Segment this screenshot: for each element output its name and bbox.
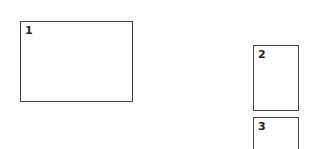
region-label-3: 3 — [258, 121, 266, 132]
region-label-1: 1 — [25, 25, 33, 36]
region-label-2: 2 — [258, 49, 266, 60]
region-box-3: 3 — [253, 117, 299, 149]
region-box-2: 2 — [253, 45, 299, 111]
region-box-1: 1 — [20, 21, 133, 102]
